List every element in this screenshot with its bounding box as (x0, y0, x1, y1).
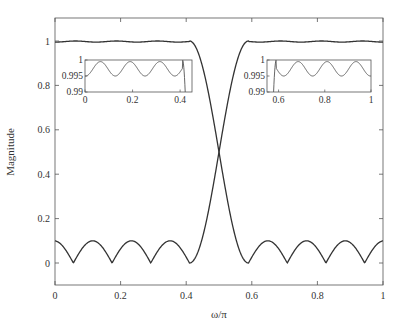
y-tick-label: 0.6 (38, 124, 51, 135)
x-tick-label: 0.6 (246, 290, 259, 301)
inset-y-tick-label: 1 (260, 55, 265, 65)
x-tick-label: 0.4 (180, 290, 193, 301)
x-tick-label: 0.2 (114, 290, 127, 301)
y-tick-label: 0.4 (38, 169, 51, 180)
y-tick-label: 1 (45, 36, 50, 47)
inset-y-tick-label: 0.995 (244, 71, 266, 81)
x-axis-label: ω/π (211, 308, 227, 320)
inset-x-tick-label: 0.2 (127, 95, 139, 105)
y-tick-label: 0 (45, 258, 50, 269)
background (0, 0, 405, 333)
inset-x-tick-label: 0.8 (319, 95, 331, 105)
x-tick-label: 0 (53, 290, 58, 301)
y-tick-label: 0.8 (38, 80, 51, 91)
inset-y-tick-label: 0.99 (248, 87, 265, 97)
magnitude-response-chart: 00.20.40.60.8100.20.40.60.81 00.20.40.99… (0, 0, 405, 333)
inset-y-tick-label: 0.995 (62, 71, 84, 81)
y-axis-label: Magnitude (4, 128, 16, 176)
x-tick-label: 1 (381, 290, 386, 301)
inset-y-tick-label: 0.99 (66, 87, 83, 97)
inset-x-tick-label: 0.6 (273, 95, 285, 105)
x-tick-label: 0.8 (311, 290, 324, 301)
inset-y-tick-label: 1 (78, 55, 83, 65)
inset-x-tick-label: 1 (369, 95, 374, 105)
inset-x-tick-label: 0.4 (174, 95, 186, 105)
inset-x-tick-label: 0 (83, 95, 88, 105)
y-tick-label: 0.2 (38, 213, 51, 224)
